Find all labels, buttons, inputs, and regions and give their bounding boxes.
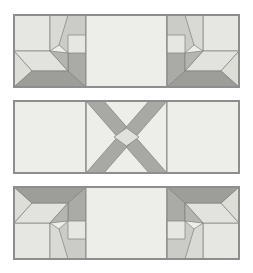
bottom-panel [13,186,240,260]
top-center-block [86,15,167,87]
bottom-left-block [14,187,86,259]
middle-left-block [14,101,86,173]
bottom-center-block [86,187,167,259]
top-panel-canvas [14,15,239,87]
bottom-panel-canvas [14,187,239,259]
top-right-block [167,15,239,87]
top-left-block [14,15,86,87]
middle-right-block [167,101,239,173]
middle-panel [13,100,240,174]
middle-center-block [86,101,167,173]
middle-panel-canvas [14,101,239,173]
quilt-pattern-figure [0,0,253,273]
bottom-right-block [167,187,239,259]
top-panel [13,14,240,88]
